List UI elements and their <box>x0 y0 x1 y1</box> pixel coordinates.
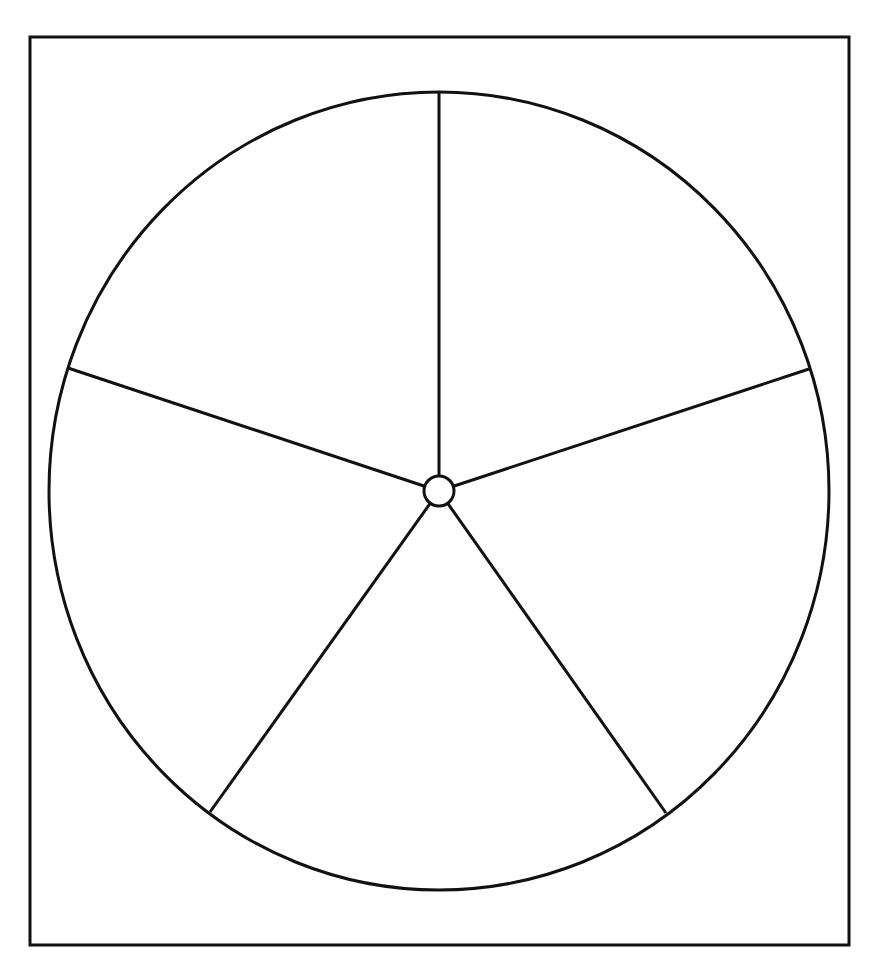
spoke-left <box>68 368 439 491</box>
spoke-right <box>439 369 809 491</box>
section-dividers <box>68 93 809 813</box>
spoke-bottom-left <box>210 491 439 812</box>
spoke-bottom-right <box>439 491 666 813</box>
pie-divider-diagram <box>0 0 869 959</box>
center-hub <box>424 476 454 506</box>
